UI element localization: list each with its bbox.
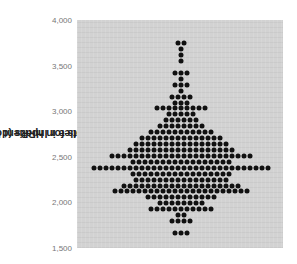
data-point [98,165,103,170]
data-point [221,171,226,176]
data-point [137,171,142,176]
data-point [188,124,193,129]
data-point [218,177,223,182]
data-point [206,136,211,141]
data-point [194,136,199,141]
data-point [209,130,214,135]
data-point [200,142,205,147]
data-point [221,159,226,164]
data-point [218,142,223,147]
data-point [170,153,175,158]
data-point [230,147,235,152]
data-point [194,147,199,152]
data-point [188,195,193,200]
data-point [146,195,151,200]
data-point [206,183,211,188]
data-point [146,177,151,182]
data-point [140,136,145,141]
data-point [143,189,148,194]
data-point [155,106,160,111]
data-point [134,153,139,158]
data-point [188,183,193,188]
data-point [188,118,193,123]
data-point [134,183,139,188]
data-point [212,165,217,170]
data-point [221,189,226,194]
data-point [137,189,142,194]
data-point [179,207,184,212]
data-point [188,153,193,158]
data-point [146,183,151,188]
data-point [203,207,208,212]
data-point [182,201,187,206]
data-point [206,165,211,170]
data-point [182,165,187,170]
data-point [173,112,178,117]
data-point [200,147,205,152]
data-point [164,177,169,182]
data-point [197,171,202,176]
data-point [212,136,217,141]
data-point [146,147,151,152]
data-point [146,136,151,141]
data-point [185,230,190,235]
y-axis-label: Reimbursements for Inpatient Hospital Se… [4,20,54,248]
data-point [176,165,181,170]
data-point [173,171,178,176]
data-point [239,189,244,194]
data-point [179,70,184,75]
data-point [236,165,241,170]
data-point [158,153,163,158]
data-point [200,201,205,206]
data-point [176,183,181,188]
data-point [167,106,172,111]
data-point [176,118,181,123]
data-point [173,100,178,105]
data-point [149,159,154,164]
data-point [224,153,229,158]
data-point [158,147,163,152]
data-point [170,136,175,141]
data-point [194,195,199,200]
data-point [212,183,217,188]
data-point [212,195,217,200]
data-point [170,142,175,147]
data-point [197,207,202,212]
data-point [194,118,199,123]
data-point [167,112,172,117]
data-point [200,195,205,200]
data-point [194,142,199,147]
data-point [182,40,187,45]
data-point [254,165,259,170]
data-point [209,159,214,164]
data-point [218,153,223,158]
data-point [248,165,253,170]
data-point [179,76,184,81]
data-point [218,136,223,141]
data-point [92,165,97,170]
data-point [170,118,175,123]
data-point [185,106,190,111]
data-point [131,159,136,164]
data-point [200,136,205,141]
data-point [176,147,181,152]
data-point [188,94,193,99]
data-point [233,189,238,194]
data-point [134,177,139,182]
data-point [131,189,136,194]
data-point [173,70,178,75]
data-point [206,153,211,158]
data-point [203,171,208,176]
data-point [179,52,184,57]
data-point [191,207,196,212]
data-point [149,189,154,194]
data-point [182,142,187,147]
data-point [176,195,181,200]
data-point [152,177,157,182]
data-point [146,165,151,170]
data-point [161,130,166,135]
data-point [182,118,187,123]
data-point [164,136,169,141]
data-point [203,130,208,135]
data-point [191,130,196,135]
